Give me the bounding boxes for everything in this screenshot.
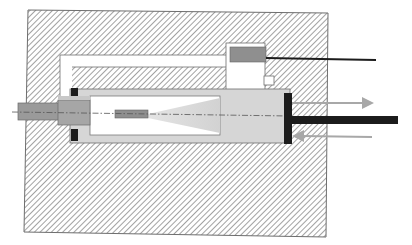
arrow-in xyxy=(292,130,372,142)
cylinder-chamber xyxy=(70,89,290,143)
end-plate xyxy=(284,93,292,144)
sensor-element xyxy=(230,47,266,62)
cross-section-diagram xyxy=(0,0,412,245)
piston-rod xyxy=(292,116,398,124)
diagram-canvas xyxy=(0,0,412,245)
seal-bottom xyxy=(71,129,78,141)
sensor-nub xyxy=(264,76,274,85)
